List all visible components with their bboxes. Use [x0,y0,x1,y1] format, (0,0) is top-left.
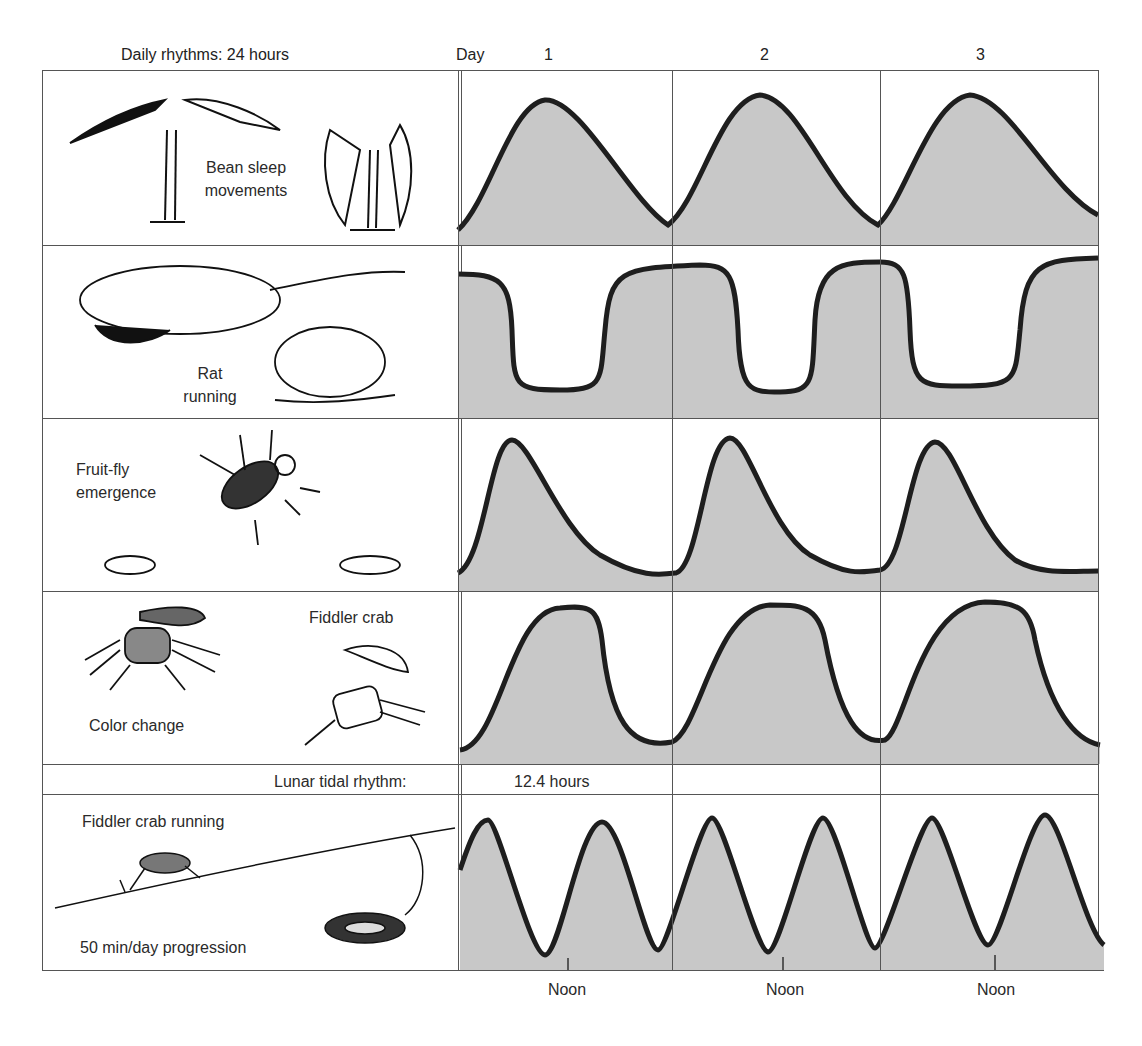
rhythm-chart [0,0,1142,1046]
fiddler-crab-label: Fiddler crab [309,606,393,629]
fiddler-running-label: Fiddler crab running [82,810,224,833]
noon-label-1: Noon [527,981,607,999]
noon-label-2: Noon [745,981,825,999]
curve-crab-running [460,815,1104,970]
curve-rat-running [458,258,1098,418]
rat-label: Rat running [160,362,260,408]
lunar-tidal-label: Lunar tidal rhythm: [274,770,407,793]
fruit-fly-label: Fruit-fly emergence [76,458,196,504]
noon-label-3: Noon [956,981,1036,999]
curve-crab-color [460,602,1100,764]
bean-label: Bean sleep movements [186,156,306,202]
lunar-tidal-value: 12.4 hours [514,770,590,793]
curve-bean-sleep [458,95,1098,245]
progression-label: 50 min/day progression [80,936,246,959]
color-change-label: Color change [89,714,184,737]
crab-burrow-icon [55,828,455,943]
curve-fruit-fly [458,438,1098,591]
